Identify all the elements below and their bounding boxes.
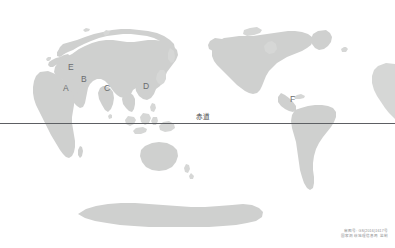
new-zealand-landmass <box>184 164 190 173</box>
sumatra-landmass <box>125 116 136 126</box>
region-label-b: B <box>81 75 87 84</box>
philippines-landmass <box>150 103 156 112</box>
region-label-d: D <box>143 82 149 91</box>
new-zealand-south-landmass <box>189 173 194 179</box>
north-america-landmass <box>212 31 313 94</box>
region-label-c: C <box>104 84 110 93</box>
world-map-graphic <box>0 0 395 248</box>
british-isles-landmass <box>46 57 51 61</box>
greenland-landmass <box>311 30 332 50</box>
caribbean-landmass <box>294 94 305 99</box>
equator-label: 赤道 <box>196 114 211 121</box>
southeast-asia-landmass <box>122 93 135 112</box>
iceland-landmass <box>341 47 348 52</box>
equator-line <box>0 123 395 124</box>
madagascar-landmass <box>78 146 83 158</box>
region-label-e: E <box>68 63 74 72</box>
region-label-f: F <box>290 95 295 104</box>
region-label-a: A <box>63 84 69 93</box>
map-credit-block: 审图号: GS(2016)1617号 国家测绘地理信息局 监制 <box>341 229 388 239</box>
sri-lanka-landmass <box>108 114 112 119</box>
africa-east-wrap <box>372 63 395 119</box>
map-issuing-authority: 国家测绘地理信息局 监制 <box>341 234 388 239</box>
arctic-islands-landmass <box>83 28 90 32</box>
canadian-arctic-landmass <box>243 27 262 36</box>
south-america-landmass <box>291 105 336 190</box>
australia-landmass <box>140 142 178 171</box>
antarctica-landmass <box>78 203 263 227</box>
world-map-figure: 赤道 A B C D E F 审图号: GS(2016)1617号 国家测绘地理… <box>0 0 395 248</box>
java-landmass <box>133 127 147 134</box>
